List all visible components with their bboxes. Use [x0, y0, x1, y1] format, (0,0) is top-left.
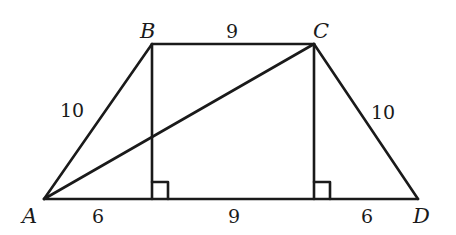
point-label-b: B — [139, 19, 155, 43]
segment-ab — [44, 44, 152, 199]
length-label-bfoot-cfoot: 9 — [228, 205, 240, 227]
length-label-cfoot-d: 6 — [361, 205, 373, 227]
right-angle-marker-c — [314, 182, 330, 199]
trapezoid-diagram: B C A D 9 10 10 6 9 6 — [0, 0, 456, 235]
right-angle-marker-b — [152, 182, 168, 199]
length-label-a-bfoot: 6 — [92, 205, 104, 227]
point-label-d: D — [412, 204, 430, 228]
point-label-c: C — [313, 19, 329, 43]
length-label-bc: 9 — [226, 20, 238, 42]
segment-cd — [314, 44, 418, 199]
length-label-cd: 10 — [371, 101, 395, 123]
length-label-ab: 10 — [60, 99, 84, 121]
diagonal-ac — [44, 44, 314, 199]
point-label-a: A — [20, 204, 37, 228]
